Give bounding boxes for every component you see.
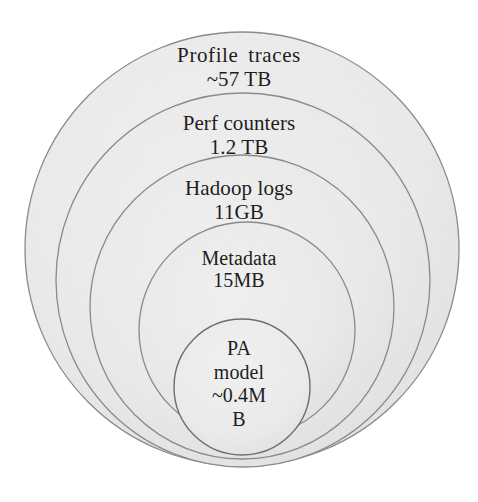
label-perf-counters-name: Perf counters <box>0 112 478 136</box>
label-profile-traces-name: Profile traces <box>0 44 478 68</box>
label-metadata-size: 15MB <box>0 269 478 291</box>
label-hadoop-logs: Hadoop logs 11GB <box>0 177 478 224</box>
label-profile-traces: Profile traces ~57 TB <box>0 44 478 91</box>
label-pa-model-line2: model <box>0 361 478 385</box>
label-perf-counters: Perf counters 1.2 TB <box>0 112 478 159</box>
label-pa-model-line1: PA <box>0 337 478 361</box>
label-pa-model-line4: B <box>0 408 478 432</box>
label-perf-counters-size: 1.2 TB <box>0 136 478 160</box>
diagram-canvas: Profile traces ~57 TB Perf counters 1.2 … <box>0 0 478 502</box>
label-hadoop-logs-name: Hadoop logs <box>0 177 478 201</box>
label-pa-model: PA model ~0.4M B <box>0 337 478 431</box>
label-profile-traces-size: ~57 TB <box>0 68 478 92</box>
label-pa-model-line3: ~0.4M <box>0 384 478 408</box>
label-metadata: Metadata 15MB <box>0 247 478 292</box>
label-hadoop-logs-size: 11GB <box>0 201 478 225</box>
label-metadata-name: Metadata <box>0 247 478 269</box>
